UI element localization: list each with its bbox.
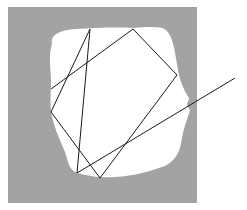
- white-irregular-region: [50, 27, 190, 177]
- reflection-diagram: [0, 0, 247, 210]
